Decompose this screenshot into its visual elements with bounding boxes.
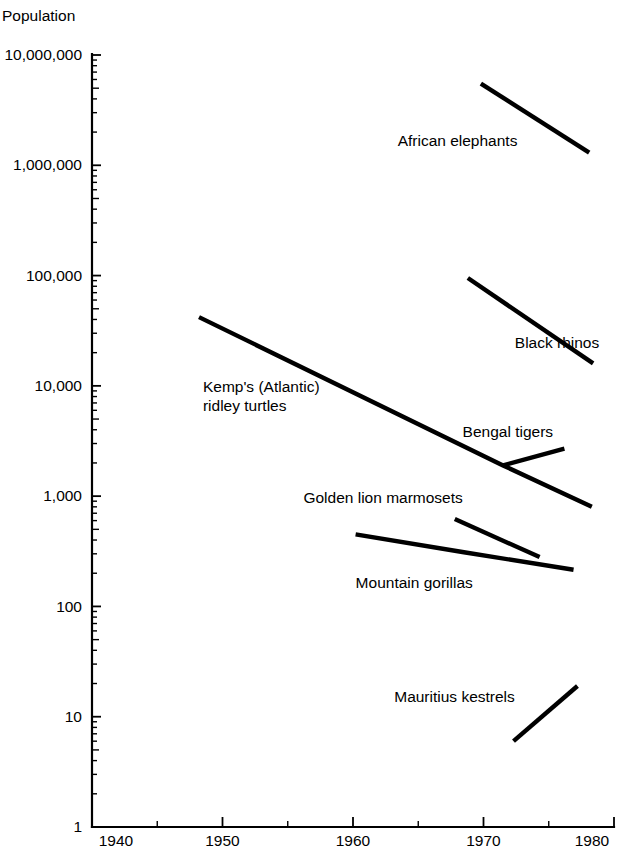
y-tick-label: 10,000,000 xyxy=(4,46,82,63)
y-tick-label: 10,000 xyxy=(35,377,83,394)
y-tick-label: 1,000 xyxy=(43,487,82,504)
series-label-line: Kemp's (Atlantic) xyxy=(203,378,320,395)
series-label-mountain-gorillas: Mountain gorillas xyxy=(356,574,473,591)
series-annotations: African elephantsBlack rhinosKemp's (Atl… xyxy=(203,132,600,706)
series-label-kemp-s-atlantic-ridley-turtles: Kemp's (Atlantic)ridley turtles xyxy=(203,378,320,414)
y-axis-title: Population xyxy=(2,7,75,24)
series-label-black-rhinos: Black rhinos xyxy=(515,334,600,351)
series-label-line: Mountain gorillas xyxy=(356,574,473,591)
series-label-golden-lion-marmosets: Golden lion marmosets xyxy=(303,489,463,506)
y-axis: 10,000,0001,000,000100,00010,0001,000100… xyxy=(4,46,101,835)
population-decline-chart: Population 10,000,0001,000,000100,00010,… xyxy=(0,0,626,859)
y-tick-label: 1,000,000 xyxy=(13,156,82,173)
x-tick-label: 1980 xyxy=(575,832,610,849)
chart-svg: Population 10,000,0001,000,000100,00010,… xyxy=(0,0,626,859)
series-label-african-elephants: African elephants xyxy=(398,132,518,149)
series-line-mauritius-kestrels xyxy=(514,686,578,741)
series-label-line: African elephants xyxy=(398,132,518,149)
x-axis: 19401950196019701980 xyxy=(92,817,614,849)
series-line-mountain-gorillas xyxy=(356,534,574,569)
x-tick-label: 1970 xyxy=(466,832,501,849)
x-tick-label: 1960 xyxy=(336,832,371,849)
series-label-line: Mauritius kestrels xyxy=(394,689,515,706)
y-tick-label: 10 xyxy=(65,708,83,725)
y-tick-label: 100,000 xyxy=(26,267,82,284)
y-tick-label: 1 xyxy=(73,818,82,835)
series-label-bengal-tigers: Bengal tigers xyxy=(463,423,554,440)
series-label-line: Golden lion marmosets xyxy=(303,489,463,506)
y-tick-label: 100 xyxy=(56,598,82,615)
series-label-line: ridley turtles xyxy=(203,397,287,414)
series-label-line: Black rhinos xyxy=(515,334,600,351)
axis-title-group: Population xyxy=(2,7,75,24)
series-label-line: Bengal tigers xyxy=(463,423,554,440)
series-label-mauritius-kestrels: Mauritius kestrels xyxy=(394,689,515,706)
series-line-bengal-tigers xyxy=(503,449,564,466)
x-tick-label: 1940 xyxy=(99,832,134,849)
x-tick-label: 1950 xyxy=(205,832,240,849)
